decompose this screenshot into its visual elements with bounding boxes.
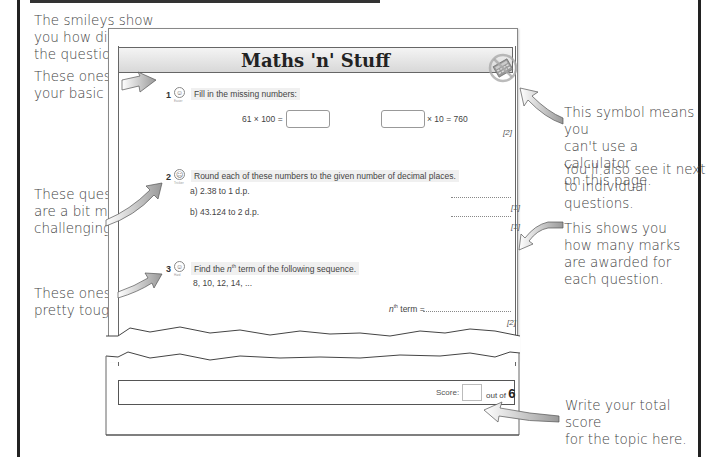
label-text: term = (398, 304, 425, 314)
difficulty-label: Hard (174, 273, 181, 277)
question-part-text: b) 43.124 to 2 d.p. (190, 207, 259, 217)
question-prompt: Find the nth term of the following seque… (191, 262, 359, 275)
hard-smiley-icon: ☺ (174, 261, 185, 272)
answer-line-2b[interactable] (451, 216, 511, 217)
page-title-bar: Maths 'n' Stuff (118, 47, 513, 73)
arrow-calculator (520, 88, 563, 124)
question-prompt: Round each of these numbers to the given… (191, 170, 459, 182)
arrow-marks (519, 222, 563, 250)
no-calculator-icon (488, 53, 518, 83)
nth-term-label: nth term = (389, 303, 425, 314)
top-rule (30, 0, 380, 3)
difficulty-label: Trickier (174, 181, 184, 185)
annotation-line: for the topic here. (565, 431, 706, 448)
marks-label: [1] (511, 222, 520, 231)
annotation-calculator-extra: You'll also see it next to individual qu… (564, 161, 706, 212)
annotation-line: are awarded for (564, 254, 680, 271)
score-label: Score: (436, 388, 459, 397)
sequence-text: 8, 10, 12, 14, ... (193, 278, 252, 288)
annotation-line: The smileys show (34, 12, 156, 29)
prompt-text: Find the (194, 264, 227, 274)
annotation-line: Write your total score (565, 397, 706, 431)
question-number: 2 (166, 172, 171, 182)
easy-smiley-icon: ☺ (174, 87, 185, 98)
page-title: Maths 'n' Stuff (241, 50, 390, 71)
annotation-line: This symbol means you (564, 104, 706, 138)
frame-right-border (698, 0, 701, 457)
score-total: out of 6 (486, 386, 515, 401)
marks-label: [2] (503, 128, 512, 137)
tricky-smiley-icon: ☹ (174, 169, 185, 180)
question-part-text: 61 × 100 = (242, 114, 283, 124)
answer-line-2a[interactable] (451, 197, 511, 198)
annotation-line: how many marks (564, 237, 680, 254)
out-of-label: out of (486, 391, 506, 400)
question-prompt: Fill in the missing numbers: (191, 88, 300, 100)
marks-label: [1] (511, 203, 520, 212)
score-total-value: 6 (508, 386, 515, 401)
frame-left-border (17, 0, 20, 457)
answer-box-1b[interactable] (381, 110, 425, 128)
annotation-line: to individual questions. (564, 178, 706, 212)
question-number: 1 (166, 90, 171, 100)
arrow-score (484, 402, 559, 422)
score-input-box[interactable] (462, 384, 482, 401)
question-part-text: a) 2.38 to 1 d.p. (190, 186, 250, 196)
annotation-line: This shows you (564, 220, 680, 237)
answer-line-3[interactable] (423, 311, 511, 312)
question-number: 3 (166, 264, 171, 274)
difficulty-label: Easier (174, 99, 183, 103)
question-part-text: × 10 = 760 (427, 114, 468, 124)
prompt-text: term of the following sequence. (236, 264, 356, 274)
annotation-score: Write your total score for the topic her… (565, 397, 706, 448)
annotation-line: You'll also see it next (564, 161, 706, 178)
marks-label: [2] (507, 318, 516, 327)
annotation-marks: This shows you how many marks are awarde… (564, 220, 680, 288)
answer-box-1a[interactable] (286, 110, 330, 128)
annotation-line: each question. (564, 271, 680, 288)
